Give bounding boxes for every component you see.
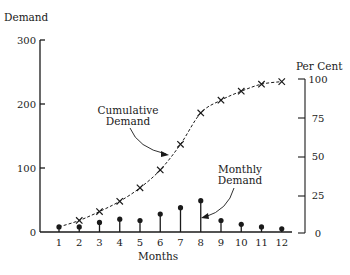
x-tick-label: 8 bbox=[198, 237, 204, 248]
cumulative-label-line2: Demand bbox=[106, 115, 151, 127]
cumulative-annotation: Cumulative Demand bbox=[98, 104, 169, 157]
y2-tick-label: 0 bbox=[315, 228, 321, 239]
arrowhead-icon bbox=[161, 151, 169, 157]
x-tick-label: 1 bbox=[56, 237, 62, 248]
x-tick-label: 6 bbox=[157, 237, 163, 248]
dot-marker-icon bbox=[158, 211, 163, 216]
dot-marker-icon bbox=[239, 222, 244, 227]
dot-marker-icon bbox=[117, 217, 122, 222]
dot-marker-icon bbox=[198, 198, 203, 203]
x-tick-label: 2 bbox=[76, 237, 82, 248]
monthly-annotation: Monthly Demand bbox=[201, 163, 262, 219]
y-tick-label: 200 bbox=[17, 99, 36, 110]
right-y-tick-labels: 0255075100 bbox=[308, 74, 327, 239]
x-marker-icon bbox=[238, 88, 244, 94]
x-axis-title: Months bbox=[138, 250, 178, 262]
dot-marker-icon bbox=[259, 224, 264, 229]
monthly-label-line2: Demand bbox=[218, 174, 263, 186]
x-marker-icon bbox=[198, 110, 204, 116]
x-tick-label: 12 bbox=[275, 237, 288, 248]
y2-tick-label: 25 bbox=[312, 190, 325, 201]
x-tick-labels: 123456789101112 bbox=[56, 237, 288, 248]
y-tick-label: 0 bbox=[30, 227, 36, 238]
x-marker-icon bbox=[157, 167, 163, 173]
x-tick-label: 5 bbox=[137, 237, 143, 248]
x-tick-label: 11 bbox=[255, 237, 268, 248]
y-axis-title: Demand bbox=[4, 11, 49, 23]
cumulative-demand-markers bbox=[76, 78, 285, 223]
x-marker-icon bbox=[76, 217, 82, 223]
left-y-tick-labels: 0100200300 bbox=[17, 35, 36, 238]
right-y-axis bbox=[298, 79, 305, 233]
dot-marker-icon bbox=[218, 218, 223, 223]
y2-tick-label: 100 bbox=[308, 74, 327, 85]
x-marker-icon bbox=[279, 78, 285, 84]
dot-marker-icon bbox=[77, 224, 82, 229]
cumulative-arrow bbox=[130, 128, 166, 154]
cumulative-demand-line bbox=[59, 82, 282, 227]
x-marker-icon bbox=[117, 198, 123, 204]
y2-tick-label: 50 bbox=[312, 151, 325, 162]
x-tick-label: 4 bbox=[117, 237, 123, 248]
x-marker-icon bbox=[96, 208, 102, 214]
y-tick-label: 100 bbox=[17, 163, 36, 174]
dot-marker-icon bbox=[56, 224, 61, 229]
monthly-arrow bbox=[205, 188, 234, 217]
dot-marker-icon bbox=[137, 218, 142, 223]
y2-tick-label: 75 bbox=[312, 113, 325, 124]
x-marker-icon bbox=[137, 185, 143, 191]
x-marker-icon bbox=[177, 141, 183, 147]
dot-marker-icon bbox=[279, 226, 284, 231]
monthly-demand-stems bbox=[56, 198, 284, 232]
x-tick-label: 3 bbox=[96, 237, 102, 248]
y2-axis-title: Per Cent bbox=[296, 60, 343, 72]
dot-marker-icon bbox=[178, 205, 183, 210]
dot-marker-icon bbox=[97, 220, 102, 225]
cumulative-demand-chart: Demand Per Cent Months 0100200300 123456… bbox=[0, 0, 350, 275]
x-tick-label: 9 bbox=[218, 237, 224, 248]
left-y-axis bbox=[40, 40, 45, 232]
arrowhead-icon bbox=[201, 213, 209, 219]
x-marker-icon bbox=[218, 97, 224, 103]
x-tick-label: 7 bbox=[177, 237, 183, 248]
y-tick-label: 300 bbox=[17, 35, 36, 46]
x-tick-label: 10 bbox=[235, 237, 248, 248]
